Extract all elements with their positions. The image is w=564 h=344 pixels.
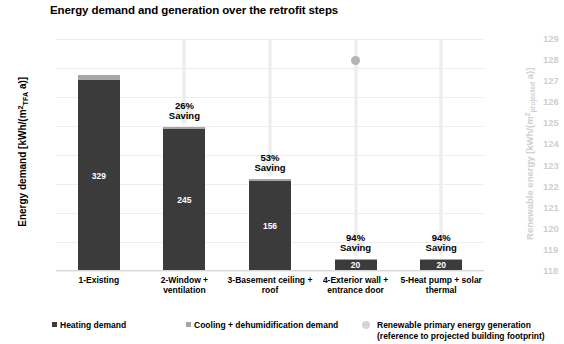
y-axis-right-tick-label: 126 (543, 97, 564, 107)
gridline (56, 271, 484, 272)
y-axis-right-tick-label: 118 (543, 266, 564, 276)
bar-value-label: 20 (335, 260, 377, 270)
y-axis-left-title-tail: a)] (17, 77, 28, 92)
x-axis-labels: 1-Existing2-Window + ventilation3-Baseme… (56, 275, 484, 301)
x-axis-category-label: 3-Basement ceiling + roof (227, 275, 313, 295)
y-axis-right-tick-label: 119 (543, 245, 564, 255)
saving-annotation: 94%Saving (313, 233, 399, 253)
circle-swatch-icon (362, 321, 370, 329)
chart-title: Energy demand and generation over the re… (50, 4, 470, 16)
saving-word: Saving (313, 243, 399, 253)
legend-label: Cooling + dehumidification demand (194, 320, 338, 331)
legend-label-line2: (reference to projected building footpri… (377, 331, 545, 342)
x-axis-line (56, 270, 484, 271)
saving-word: Saving (141, 111, 227, 121)
y-axis-right-tick-label: 129 (543, 34, 564, 44)
saving-word: Saving (398, 243, 484, 253)
x-axis-category-label: 2-Window + ventilation (141, 275, 227, 295)
legend-label: Renewable primary energy generation(refe… (377, 320, 545, 341)
saving-word: Saving (227, 163, 313, 173)
y-axis-right-tick-label: 125 (543, 118, 564, 128)
legend-label: Heating demand (60, 320, 126, 331)
legend-label-line1: Heating demand (60, 320, 126, 331)
bar-value-label: 156 (249, 221, 291, 231)
plot-area: 400350300250200150100500 129128127126125… (56, 39, 484, 271)
bar-value-label: 245 (163, 195, 205, 205)
y-axis-right-title: Renewable energy [kWh/(m2projected a)] (524, 29, 536, 279)
y-axis-right-title-superscript: 2 (524, 113, 531, 117)
legend-item[interactable]: Renewable primary energy generation(refe… (362, 320, 545, 341)
y-axis-right-title-tail: a)] (524, 68, 535, 82)
bar-group[interactable]: 329 (78, 39, 120, 271)
saving-annotation: 53%Saving (227, 153, 313, 173)
legend-item[interactable]: Heating demand (52, 320, 126, 331)
y-axis-left-title-subscript: TFA (21, 92, 30, 106)
y-axis-left-title-main: Energy demand [kWh/(m (17, 109, 28, 226)
y-axis-left-title: Energy demand [kWh/(m2TFA a)] (16, 37, 30, 267)
renewable-energy-marker[interactable] (351, 56, 360, 65)
legend-label-line1: Renewable primary energy generation (377, 320, 545, 331)
y-axis-right-title-subscript: projected (529, 82, 536, 113)
x-axis-category-label: 5-Heat pump + solar thermal (398, 275, 484, 295)
bar-segment-cooling[interactable] (78, 75, 120, 80)
y-axis-right-tick-label: 122 (543, 182, 564, 192)
bar-group[interactable]: 245 (163, 39, 205, 271)
bar-segment-cooling[interactable] (249, 179, 291, 180)
legend-label-line1: Cooling + dehumidification demand (194, 320, 338, 331)
saving-annotation: 94%Saving (398, 233, 484, 253)
y-axis-right-tick-label: 127 (543, 76, 564, 86)
x-axis-category-label: 1-Existing (56, 275, 142, 285)
legend-item[interactable]: Cooling + dehumidification demand (186, 320, 338, 331)
chart-legend: Heating demandCooling + dehumidification… (52, 320, 522, 344)
bar-value-label: 20 (420, 260, 462, 270)
square-swatch-icon (52, 322, 57, 327)
y-axis-right-tick-label: 124 (543, 139, 564, 149)
bar-segment-cooling[interactable] (163, 127, 205, 129)
bar-value-label: 329 (78, 171, 120, 181)
y-axis-right-title-main: Renewable energy [kWh/(m (524, 116, 535, 240)
y-axis-right-tick-label: 123 (543, 161, 564, 171)
saving-annotation: 26%Saving (141, 101, 227, 121)
y-axis-right-tick-label: 120 (543, 224, 564, 234)
x-axis-category-label: 4-Exterior wall + entrance door (313, 275, 399, 295)
y-axis-right-tick-label: 121 (543, 203, 564, 213)
square-swatch-icon (186, 322, 191, 327)
y-axis-right-tick-label: 128 (543, 55, 564, 65)
y-axis-left-title-superscript: 2 (16, 105, 25, 109)
